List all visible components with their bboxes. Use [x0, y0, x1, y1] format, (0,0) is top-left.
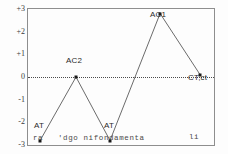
point-label-ct-ct: CT,ct: [188, 74, 207, 82]
x-axis-caption-fragment-center: 'dgo nifondamenta: [58, 134, 145, 142]
x-axis-caption-fragment-left: ra: [33, 134, 43, 142]
chart-container: +3 +2 +1 0 -1 -2 -3 AT AC2 AT AC1 CT,ct …: [0, 0, 228, 154]
point-label-at-2: AT: [104, 122, 114, 130]
point-label-ac1: AC1: [150, 11, 166, 19]
x-axis-caption-fragment-right: li: [189, 133, 199, 141]
data-point-marker: [75, 76, 78, 79]
point-label-at-1: AT: [34, 122, 44, 130]
point-label-ac2: AC2: [66, 57, 82, 65]
